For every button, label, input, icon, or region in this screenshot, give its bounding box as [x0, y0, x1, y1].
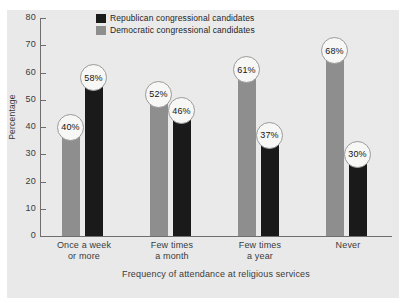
- x-axis-label-line: a year: [216, 251, 304, 262]
- x-axis-label-2: Few timesa year: [216, 240, 304, 262]
- value-label-republican-0: 58%: [80, 64, 107, 91]
- x-axis-title: Frequency of attendance at religious ser…: [40, 269, 392, 279]
- y-axis-tick-label: 80: [2, 12, 36, 22]
- x-axis-label-line: a month: [128, 251, 216, 262]
- x-axis-label-line: or more: [40, 251, 128, 262]
- y-axis-tick-label: 0: [2, 230, 36, 240]
- y-axis-tick-label: 70: [2, 39, 36, 49]
- bar-democratic-1[interactable]: [150, 94, 168, 236]
- y-axis-title: Percentage: [7, 82, 17, 152]
- y-axis-tick-label: 20: [2, 176, 36, 186]
- y-axis-tick: [41, 236, 46, 237]
- value-label-republican-3: 30%: [344, 141, 371, 168]
- x-axis-label-3: Never: [304, 240, 392, 251]
- bars-layer: 40%58%52%46%61%37%68%30%: [40, 18, 392, 236]
- value-label-democratic-0: 40%: [57, 114, 84, 141]
- value-label-republican-1: 46%: [168, 97, 195, 124]
- x-axis-label-line: Few times: [128, 240, 216, 251]
- bar-republican-0[interactable]: [85, 78, 103, 236]
- value-label-democratic-2: 61%: [233, 56, 260, 83]
- bar-republican-2[interactable]: [261, 135, 279, 236]
- x-axis-label-0: Once a weekor more: [40, 240, 128, 262]
- y-axis-tick-label: 60: [2, 67, 36, 77]
- value-label-democratic-3: 68%: [321, 37, 348, 64]
- x-axis-label-1: Few timesa month: [128, 240, 216, 262]
- value-label-democratic-1: 52%: [145, 81, 172, 108]
- x-axis-label-line: Once a week: [40, 240, 128, 251]
- bar-democratic-0[interactable]: [62, 127, 80, 236]
- x-axis-label-line: Never: [304, 240, 392, 251]
- bar-democratic-3[interactable]: [326, 51, 344, 236]
- x-axis-category-labels: Once a weekor moreFew timesa monthFew ti…: [40, 240, 392, 270]
- bar-chart-figure: 80706050403020100 Percentage Republican …: [0, 0, 403, 303]
- bar-republican-1[interactable]: [173, 111, 191, 236]
- x-axis-label-line: Few times: [216, 240, 304, 251]
- x-axis-line: [40, 236, 392, 237]
- y-axis-tick-label: 10: [2, 203, 36, 213]
- value-label-republican-2: 37%: [256, 122, 283, 149]
- bar-democratic-2[interactable]: [238, 70, 256, 236]
